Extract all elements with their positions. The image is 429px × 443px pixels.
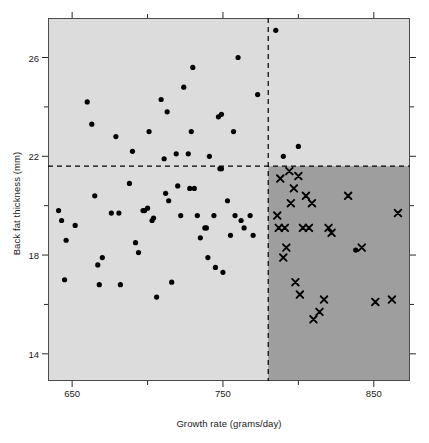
data-point-dot	[219, 112, 224, 117]
data-point-dot	[273, 28, 278, 33]
data-point-dot	[64, 238, 69, 243]
y-tick-label: 26	[9, 52, 39, 63]
data-point-dot	[187, 186, 192, 191]
data-point-dot	[189, 129, 194, 134]
data-point-dot	[281, 154, 286, 159]
data-point-dot	[133, 240, 138, 245]
data-point-dot	[116, 210, 121, 215]
data-point-dot	[162, 156, 167, 161]
data-point-dot	[151, 215, 156, 220]
data-point-dot	[251, 233, 256, 238]
x-tick-label: 650	[52, 388, 92, 399]
data-point-dot	[154, 294, 159, 299]
data-point-dot	[213, 265, 218, 270]
data-point-dot	[59, 218, 64, 223]
data-point-dot	[165, 109, 170, 114]
y-tick-label: 14	[9, 348, 39, 359]
data-point-dot	[220, 270, 225, 275]
data-point-dot	[255, 92, 260, 97]
data-point-dot	[353, 248, 358, 253]
data-point-dot	[232, 213, 237, 218]
y-tick-label: 18	[9, 250, 39, 261]
data-point-dot	[100, 255, 105, 260]
y-axis-label-container: Back fat thickness (mm)	[0, 0, 24, 443]
x-tick-label: 850	[354, 388, 394, 399]
x-tick-label: 750	[203, 388, 243, 399]
data-point-dot	[186, 151, 191, 156]
data-point-dot	[109, 210, 114, 215]
data-point-dot	[248, 213, 253, 218]
data-point-dot	[175, 183, 180, 188]
data-point-dot	[56, 208, 61, 213]
y-axis-label: Back fat thickness (mm)	[11, 104, 22, 304]
data-point-dot	[238, 218, 243, 223]
data-point-dot	[92, 193, 97, 198]
data-point-dot	[97, 282, 102, 287]
data-point-dot	[118, 282, 123, 287]
data-point-dot	[89, 122, 94, 127]
data-point-dot	[127, 181, 132, 186]
data-point-dot	[113, 134, 118, 139]
data-point-dot	[219, 166, 224, 171]
data-point-dot	[95, 262, 100, 267]
data-point-dot	[169, 280, 174, 285]
data-point-dot	[145, 206, 150, 211]
data-point-dot	[159, 97, 164, 102]
plot-canvas	[0, 0, 429, 443]
data-point-dot	[204, 225, 209, 230]
data-point-dot	[228, 233, 233, 238]
data-point-dot	[205, 255, 210, 260]
data-point-dot	[190, 65, 195, 70]
data-point-dot	[192, 186, 197, 191]
data-point-dot	[181, 85, 186, 90]
data-point-dot	[163, 191, 168, 196]
data-point-dot	[136, 250, 141, 255]
data-point-dot	[62, 277, 67, 282]
data-point-dot	[296, 144, 301, 149]
data-point-dot	[207, 154, 212, 159]
data-point-dot	[178, 213, 183, 218]
highlight-region	[268, 166, 410, 381]
data-point-dot	[166, 198, 171, 203]
scatter-plot-figure: Back fat thickness (mm) Growth rate (gra…	[0, 0, 429, 443]
x-axis-label: Growth rate (grams/day)	[48, 418, 410, 429]
data-point-dot	[241, 225, 246, 230]
data-point-dot	[174, 151, 179, 156]
data-point-dot	[235, 55, 240, 60]
data-point-dot	[85, 99, 90, 104]
data-point-dot	[130, 149, 135, 154]
data-point-dot	[225, 198, 230, 203]
data-point-dot	[146, 129, 151, 134]
data-point-dot	[211, 213, 216, 218]
data-point-dot	[198, 235, 203, 240]
data-point-dot	[195, 213, 200, 218]
data-point-dot	[231, 129, 236, 134]
y-tick-label: 22	[9, 151, 39, 162]
data-point-dot	[73, 223, 78, 228]
